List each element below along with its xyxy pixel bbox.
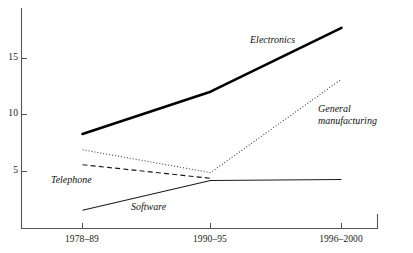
series-line-software (83, 180, 342, 211)
series-label-general-manufacturing-line2: manufacturing (318, 115, 377, 127)
x-tick-label-1996-2000: 1996–2000 (301, 234, 381, 244)
line-chart: 15 10 5 1978–89 1990–95 1996–2000 Electr… (0, 0, 413, 253)
y-tick-label-10: 10 (0, 108, 18, 118)
series-line-telephone (83, 165, 211, 179)
series-label-general-manufacturing-line1: General (318, 103, 351, 115)
y-tick-label-5: 5 (0, 165, 18, 175)
y-tick-label-15: 15 (0, 52, 18, 62)
series-line-general-manufacturing (83, 79, 342, 172)
chart-plot-area (0, 0, 413, 253)
x-tick-label-1978-89: 1978–89 (42, 234, 122, 244)
series-line-electronics (83, 28, 342, 134)
series-label-telephone: Telephone (51, 174, 92, 186)
series-label-electronics: Electronics (250, 34, 295, 46)
x-tick-label-1990-95: 1990–95 (170, 234, 250, 244)
series-label-software: Software (131, 201, 166, 213)
